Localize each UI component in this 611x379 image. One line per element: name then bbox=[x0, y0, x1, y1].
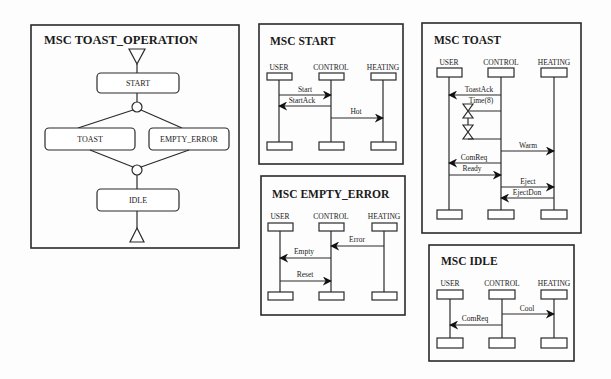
message-toastack-label: ToastAck bbox=[465, 85, 494, 94]
instance-heating-label: HEATING bbox=[538, 58, 571, 67]
instance-user-end bbox=[437, 210, 462, 219]
instance-user-head bbox=[437, 68, 462, 77]
message-comreq-label: ComReq bbox=[461, 153, 488, 162]
msc-toast: MSC TOAST USER CONTROL HEATING ToastAck … bbox=[422, 23, 581, 233]
hmsc-merge-connector bbox=[132, 165, 142, 175]
hmsc-connector bbox=[90, 150, 133, 167]
instance-control-head bbox=[489, 290, 515, 299]
instance-user-label: USER bbox=[440, 279, 459, 288]
instance-heating-end bbox=[541, 210, 567, 219]
instance-heating-label: HEATING bbox=[367, 63, 400, 72]
message-cool-label: Cool bbox=[520, 304, 535, 313]
message-empty-label: Empty bbox=[294, 247, 314, 256]
message-ejectdon-label: EjectDon bbox=[513, 188, 542, 197]
msc-diagram-canvas: MSC TOAST_OPERATION START TOAST EMPTY_ER… bbox=[0, 0, 611, 379]
msc-idle-title: MSC IDLE bbox=[441, 255, 498, 267]
instance-user-end bbox=[268, 292, 293, 300]
instance-control-end bbox=[319, 292, 344, 300]
instance-user-label: USER bbox=[439, 58, 458, 67]
hmsc-state-empty-error-label: EMPTY_ERROR bbox=[160, 135, 218, 144]
instance-control-end bbox=[489, 338, 515, 348]
instance-user-label: USER bbox=[269, 63, 288, 72]
instance-control-label: CONTROL bbox=[313, 212, 349, 221]
message-comreq-label: ComReq bbox=[462, 314, 489, 323]
timer-expire-icon bbox=[463, 125, 473, 139]
msc-empty-error-title: MSC EMPTY_ERROR bbox=[272, 188, 390, 200]
instance-control-head bbox=[319, 73, 344, 80]
instance-heating-head bbox=[541, 290, 567, 299]
instance-control-label: CONTROL bbox=[313, 63, 349, 72]
instance-heating-end bbox=[371, 142, 396, 150]
msc-start-title: MSC START bbox=[270, 35, 336, 47]
instance-user-head bbox=[437, 290, 463, 299]
instance-heating-end bbox=[372, 292, 397, 300]
instance-user-head bbox=[268, 223, 293, 231]
message-ready-label: Ready bbox=[462, 164, 481, 173]
instance-control-end bbox=[488, 210, 514, 219]
instance-heating-head bbox=[372, 223, 397, 231]
hmsc-state-idle-label: IDLE bbox=[129, 196, 147, 205]
message-error-label: Error bbox=[349, 235, 365, 244]
msc-empty-error: MSC EMPTY_ERROR USER CONTROL HEATING Err… bbox=[261, 176, 405, 315]
msc-toast-title: MSC TOAST bbox=[434, 34, 501, 46]
instance-heating-label: HEATING bbox=[538, 279, 571, 288]
instance-control-head bbox=[319, 223, 344, 231]
instance-heating-end bbox=[541, 338, 567, 348]
instance-control-label: CONTROL bbox=[483, 58, 519, 67]
hmsc-start-triangle-icon bbox=[129, 49, 145, 64]
message-warm-label: Warm bbox=[519, 141, 537, 150]
instance-control-end bbox=[319, 142, 344, 150]
message-start-label: Start bbox=[298, 85, 313, 94]
instance-control-label: CONTROL bbox=[484, 279, 520, 288]
instance-control-head bbox=[488, 68, 514, 77]
hmsc-state-start-label: START bbox=[126, 79, 150, 88]
msc-start: MSC START USER CONTROL HEATING Start Sta… bbox=[259, 24, 403, 164]
message-startack-label: StartAck bbox=[289, 96, 316, 105]
hmsc-branch-connector bbox=[132, 102, 142, 112]
message-reset-label: Reset bbox=[297, 270, 315, 279]
instance-user-end bbox=[267, 142, 292, 150]
instance-user-head bbox=[267, 73, 292, 80]
hmsc-connector bbox=[141, 110, 182, 128]
message-eject-label: Eject bbox=[520, 177, 536, 186]
msc-idle: MSC IDLE USER CONTROL HEATING Cool ComRe… bbox=[429, 245, 574, 361]
message-hot-label: Hot bbox=[350, 107, 362, 116]
instance-heating-head bbox=[541, 68, 567, 77]
hmsc-end-triangle-icon bbox=[130, 228, 144, 242]
hmsc-toast-operation: MSC TOAST_OPERATION START TOAST EMPTY_ER… bbox=[31, 25, 239, 248]
hmsc-connector bbox=[78, 110, 133, 128]
instance-heating-label: HEATING bbox=[368, 212, 401, 221]
instance-user-label: USER bbox=[270, 212, 289, 221]
hmsc-state-toast-label: TOAST bbox=[77, 135, 103, 144]
instance-user-end bbox=[437, 338, 463, 348]
hmsc-connector bbox=[141, 150, 189, 167]
hmsc-title: MSC TOAST_OPERATION bbox=[44, 33, 198, 47]
instance-heating-head bbox=[371, 73, 396, 80]
